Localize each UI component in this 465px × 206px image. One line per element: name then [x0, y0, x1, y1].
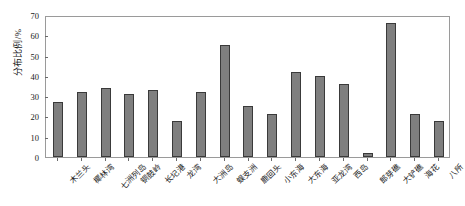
x-tick-mark [152, 158, 153, 161]
bar[interactable] [196, 92, 206, 157]
x-tick-mark [57, 158, 58, 161]
y-axis-ticks: 010203040506070 [0, 0, 45, 206]
bar[interactable] [339, 84, 349, 157]
x-tick-mark [319, 158, 320, 161]
x-tick-mark [128, 158, 129, 161]
bar[interactable] [386, 23, 396, 157]
y-tick-label-40: 40 [31, 73, 40, 82]
x-tick-label: 郎芽礁 [379, 163, 402, 186]
x-tick-mark [367, 158, 368, 161]
y-tick-label-0: 0 [35, 154, 39, 163]
x-tick-mark [248, 158, 249, 161]
bar[interactable] [148, 90, 158, 157]
y-tick-mark [45, 36, 48, 37]
y-tick-mark [45, 97, 48, 98]
x-tick-mark [438, 158, 439, 161]
x-tick-label: 鹿回头 [260, 163, 283, 186]
y-tick-mark [45, 77, 48, 78]
plot-area [45, 16, 450, 158]
bar[interactable] [434, 121, 444, 158]
bar[interactable] [267, 114, 277, 157]
x-tick-label: 西岛 [352, 163, 369, 180]
x-tick-label: 长圮港 [164, 163, 187, 186]
bar[interactable] [53, 102, 63, 157]
x-tick-mark [224, 158, 225, 161]
x-tick-mark [390, 158, 391, 161]
y-tick-mark [45, 138, 48, 139]
y-tick-mark [45, 117, 48, 118]
y-tick-label-30: 30 [31, 93, 40, 102]
bar[interactable] [410, 114, 420, 157]
x-tick-label: 八所 [448, 163, 465, 180]
y-tick-mark [45, 57, 48, 58]
y-tick-label-10: 10 [31, 133, 40, 142]
x-tick-label: 龙湾 [186, 163, 203, 180]
y-tick-label-60: 60 [31, 32, 40, 41]
x-tick-label: 木兰头 [69, 163, 92, 186]
bar[interactable] [124, 94, 134, 157]
x-tick-mark [81, 158, 82, 161]
x-tick-label: 海花 [424, 163, 441, 180]
x-tick-mark [295, 158, 296, 161]
y-tick-label-50: 50 [31, 52, 40, 61]
bar[interactable] [220, 45, 230, 157]
bar[interactable] [315, 76, 325, 157]
x-tick-mark [414, 158, 415, 161]
x-tick-label: 大东海 [307, 163, 330, 186]
x-tick-label: 大铲礁 [402, 163, 425, 186]
x-tick-label: 亚龙湾 [331, 163, 354, 186]
x-tick-label: 小东海 [283, 163, 306, 186]
x-tick-label: 椰林湾 [93, 163, 116, 186]
x-tick-mark [176, 158, 177, 161]
x-tick-mark [343, 158, 344, 161]
bar[interactable] [243, 106, 253, 157]
y-tick-label-70: 70 [31, 12, 40, 21]
y-tick-label-20: 20 [31, 113, 40, 122]
x-tick-mark [271, 158, 272, 161]
bar[interactable] [101, 88, 111, 157]
x-tick-mark [200, 158, 201, 161]
x-tick-label: 大洲岛 [212, 163, 235, 186]
x-tick-label: 蜈支洲 [236, 163, 259, 186]
bar[interactable] [291, 72, 301, 157]
bar[interactable] [363, 153, 373, 157]
bar[interactable] [77, 92, 87, 157]
bar[interactable] [172, 121, 182, 158]
x-tick-mark [105, 158, 106, 161]
